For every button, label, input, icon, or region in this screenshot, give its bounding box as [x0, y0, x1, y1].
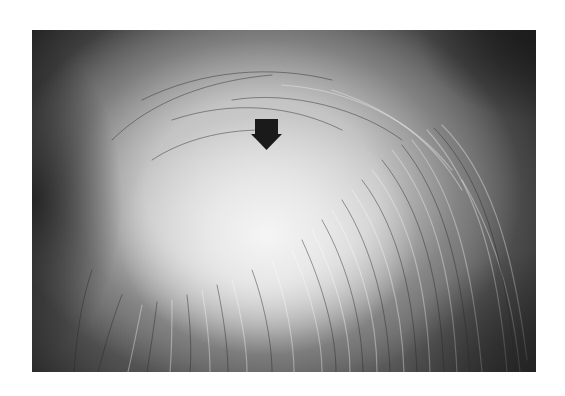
scalp-photograph	[32, 30, 536, 372]
arrow-down-icon	[32, 30, 536, 372]
